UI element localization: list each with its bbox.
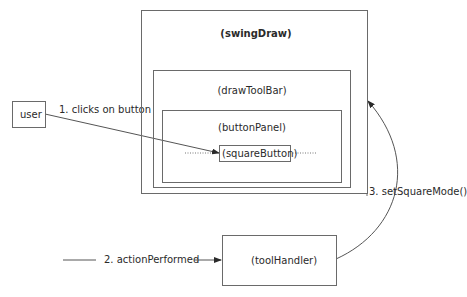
toolhandler-label: (toolHandler) xyxy=(251,255,317,266)
message-2-label: 2. actionPerformed xyxy=(104,254,199,265)
squarebutton-label: (squareButton) xyxy=(222,148,297,159)
buttonpanel-label: (buttonPanel) xyxy=(218,122,286,133)
squarebutton-box: (squareButton) xyxy=(219,145,291,162)
swingdraw-label: (swingDraw) xyxy=(220,28,291,39)
message-3-label: 3. setSquareMode() xyxy=(369,186,467,197)
drawtoolbar-label: (drawToolBar) xyxy=(217,85,286,96)
message-1-label: 1. clicks on button xyxy=(59,104,151,115)
user-label: user xyxy=(20,109,42,120)
toolhandler-box: (toolHandler) xyxy=(222,235,337,286)
user-box: user xyxy=(12,101,46,128)
